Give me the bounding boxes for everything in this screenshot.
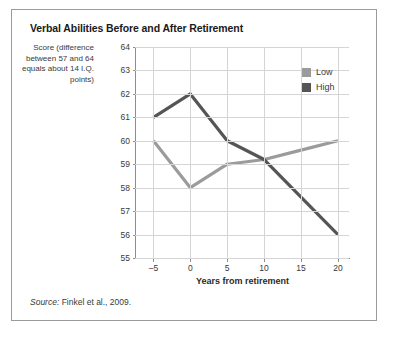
x-tick-label: 15 [296,263,305,273]
y-tick-label: 60 [110,136,130,146]
gridline-horizontal [135,141,349,142]
x-tick-mark [153,259,154,262]
y-axis-caption: Score (difference between 57 and 64 equa… [18,43,94,85]
y-tick-label: 62 [110,89,130,99]
source-note: Source: Finkel et al., 2009. [30,297,131,307]
gridline-horizontal [135,211,349,212]
legend-item-low: Low [302,67,335,77]
x-tick-mark [227,259,228,262]
y-tick-label: 63 [110,65,130,75]
legend-swatch-icon [302,68,311,77]
source-label: Source: [30,297,59,307]
x-tick-label: –5 [149,263,158,273]
gridline-vertical [153,47,154,258]
y-tick-label: 58 [110,183,130,193]
gridline-horizontal [135,164,349,165]
y-tick-label: 57 [110,206,130,216]
legend-item-high: High [302,82,335,92]
gridline-vertical [264,47,265,258]
x-axis-tick-labels: –505101520 [135,259,350,275]
y-tick-label: 64 [110,42,130,52]
gridline-vertical [227,47,228,258]
x-tick-label: 20 [333,263,342,273]
x-tick-label: 0 [188,263,193,273]
page-title: Verbal Abilities Before and After Retire… [30,22,243,34]
gridline-horizontal [135,117,349,118]
x-tick-label: 5 [225,263,230,273]
x-axis-label: Years from retirement [135,276,350,286]
y-tick-label: 55 [110,253,130,263]
legend-label: High [316,82,335,92]
figure-frame: Verbal Abilities Before and After Retire… [11,9,377,321]
source-citation: Finkel et al., 2009. [59,297,131,307]
y-tick-label: 59 [110,159,130,169]
x-tick-mark [338,259,339,262]
gridline-vertical [338,47,339,258]
y-tick-label: 56 [110,230,130,240]
x-tick-mark [190,259,191,262]
x-tick-label: 10 [259,263,268,273]
gridline-vertical [190,47,191,258]
legend-swatch-icon [302,83,311,92]
x-tick-mark [264,259,265,262]
gridline-horizontal [135,188,349,189]
gridline-horizontal [135,47,349,48]
x-tick-mark [301,259,302,262]
chart-legend: LowHigh [302,67,335,97]
y-axis-tick-labels: 64636261605958575655 [108,47,130,259]
gridline-horizontal [135,235,349,236]
y-tick-label: 61 [110,112,130,122]
legend-label: Low [316,67,333,77]
